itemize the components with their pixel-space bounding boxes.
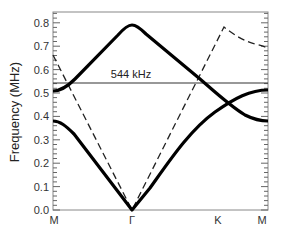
y-tick-label: 0.2: [34, 157, 49, 169]
y-tick-label: 0.1: [34, 181, 49, 193]
y-tick-label: 0.6: [34, 64, 49, 76]
x-tick-label-m-left: M: [49, 214, 58, 226]
dashed-band-curve: [53, 27, 268, 210]
y-ticks-right: [261, 13, 268, 210]
y-tick-label: 0.5: [34, 87, 49, 99]
plot-frame: [53, 12, 268, 210]
y-tick-label: 0.0: [34, 204, 49, 216]
x-tick-label-gamma: Γ: [129, 214, 135, 226]
y-tick-label: 0.8: [34, 17, 49, 29]
solid-band-upper-curve: [53, 25, 268, 121]
y-axis-title: Frequency (MHz): [7, 62, 22, 162]
dispersion-chart: 0.0 0.1 0.2 0.3 0.4 0.5 0.6 0.7 0.8 Freq…: [0, 0, 282, 235]
x-tick-labels: M Γ K M: [49, 214, 266, 226]
y-tick-label: 0.3: [34, 134, 49, 146]
y-ticks-left: [53, 13, 60, 210]
x-tick-label-m-right: M: [257, 214, 266, 226]
y-tick-label: 0.4: [34, 110, 49, 122]
y-tick-label: 0.7: [34, 40, 49, 52]
reference-line-label: 544 kHz: [111, 68, 151, 80]
x-tick-label-k: K: [214, 214, 222, 226]
y-tick-labels: 0.0 0.1 0.2 0.3 0.4 0.5 0.6 0.7 0.8: [34, 17, 49, 216]
